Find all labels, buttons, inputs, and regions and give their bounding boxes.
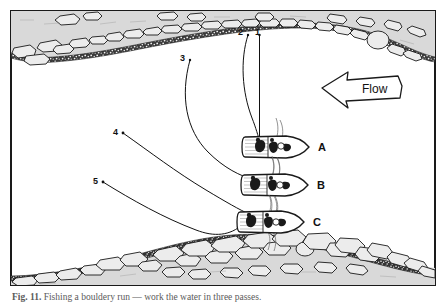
figure-caption-text: Fishing a bouldery run — work the water … — [44, 292, 262, 302]
callout-label-4: 4 — [113, 127, 118, 137]
boat-b-seat — [277, 182, 283, 188]
boat-c-seat — [273, 219, 279, 225]
boat-a-label: A — [318, 141, 326, 153]
boat-a-seat — [278, 143, 284, 149]
callout-label-3: 3 — [180, 53, 185, 63]
callout-label-5: 5 — [93, 176, 98, 186]
river-scene-illustration: Flow — [0, 0, 446, 306]
figure-caption: Fig. 11. Fishing a bouldery run — work t… — [12, 291, 436, 303]
callout-label-2: 2 — [238, 27, 243, 37]
flow-label: Flow — [362, 82, 388, 96]
boat-b-label: B — [317, 179, 325, 191]
figure-container: Flow — [0, 0, 446, 306]
figure-caption-number: Fig. 11. — [12, 292, 41, 302]
boat-c-label: C — [313, 216, 321, 228]
callout-label-1: 1 — [255, 27, 260, 37]
